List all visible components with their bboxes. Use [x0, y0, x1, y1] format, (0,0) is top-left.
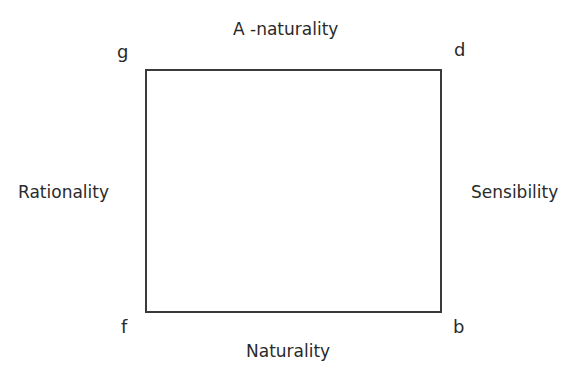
- left-label: Rationality: [18, 182, 109, 202]
- corner-label-bottom-right: b: [453, 317, 464, 337]
- square-frame: [145, 69, 442, 313]
- right-label: Sensibility: [471, 182, 558, 202]
- bottom-label: Naturality: [246, 341, 330, 361]
- top-label: A -naturality: [233, 19, 338, 39]
- semiotic-square-diagram: A -naturality Naturality Rationality Sen…: [0, 0, 587, 383]
- corner-label-top-left: g: [117, 42, 128, 62]
- corner-label-top-right: d: [454, 40, 465, 60]
- corner-label-bottom-left: f: [121, 317, 127, 337]
